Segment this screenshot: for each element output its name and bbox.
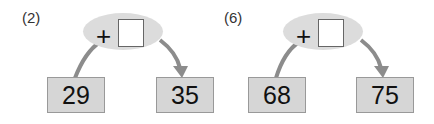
end-number-box: 35 [156,77,214,113]
problem-6: (6) + 68 75 [217,0,434,124]
plus-sign: + [296,23,311,49]
start-number-box: 29 [47,77,105,113]
answer-blank-box[interactable] [318,19,344,47]
start-number-box: 68 [248,77,306,113]
end-number-box: 75 [356,77,414,113]
plus-sign: + [96,23,111,49]
problem-2: (2) + 29 35 [0,0,217,124]
answer-blank-box[interactable] [118,19,144,47]
operator-ellipse: + [83,13,163,50]
operator-ellipse: + [283,13,363,50]
